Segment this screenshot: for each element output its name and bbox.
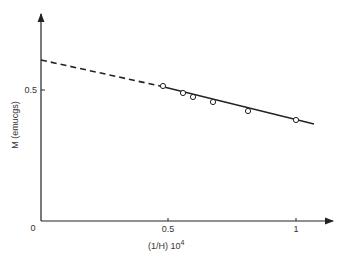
- x-axis-label: (1/H) 104: [148, 239, 185, 251]
- x-tick-label-0.5: 0.5: [162, 224, 175, 234]
- chart: 0.5 0 0.5 1 (1/H) 104 M (emucgs): [0, 0, 346, 261]
- extrapolation-line: [41, 60, 160, 86]
- x-tick-label-1: 1: [293, 224, 298, 234]
- y-axis-label: M (emucgs): [10, 101, 20, 149]
- y-tick-label: 0.5: [24, 85, 37, 95]
- origin-label: 0: [30, 223, 35, 233]
